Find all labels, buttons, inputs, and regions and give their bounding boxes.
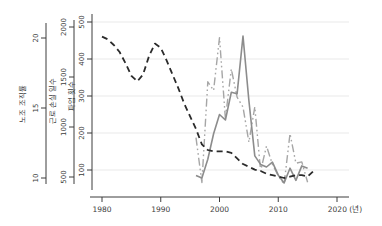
labor-statistics-chart: 19801990200020102020 (년) 101520노조 조직률500… <box>0 0 382 226</box>
y-axis-tick-label: 20 <box>32 34 40 43</box>
y-axis-tick-label: 400 <box>78 52 86 65</box>
y-axis-title-lost_days: 근로 손실 일수 <box>48 78 57 125</box>
x-axis-tick-label: 2020 (년) <box>328 204 362 214</box>
x-axis: 19801990200020102020 (년) <box>90 197 362 214</box>
x-axis-tick-label: 1990 <box>151 205 170 214</box>
chart-canvas: 19801990200020102020 (년) 101520노조 조직률500… <box>0 0 382 226</box>
series-line-lost_days <box>196 38 308 185</box>
x-axis-tick-label: 2010 <box>269 205 288 214</box>
y-axis-tick-label: 200 <box>78 126 86 139</box>
y-axes: 101520노조 조직률500100015002000근로 손실 일수10020… <box>18 14 93 190</box>
gridlines <box>90 22 349 170</box>
series-line-strikes <box>196 36 308 183</box>
y-axis-tick-label: 500 <box>60 170 68 183</box>
y-axis-tick-label: 300 <box>78 89 86 102</box>
y-axis-tick-label: 1000 <box>60 118 68 136</box>
y-axis-tick-label: 15 <box>32 104 40 113</box>
x-axis-tick-label: 2000 <box>210 205 229 214</box>
y-axis-title-density: 노조 조직률 <box>18 85 27 122</box>
y-axis-title-strikes: 파업 횟수 <box>67 81 76 111</box>
x-axis-tick-label: 1980 <box>92 205 111 214</box>
y-axis-tick-label: 10 <box>32 174 40 183</box>
y-axis-tick-label: 100 <box>78 163 86 176</box>
y-axis-tick-label: 500 <box>78 15 86 28</box>
data-series <box>102 36 314 184</box>
y-axis-tick-label: 2000 <box>60 18 68 36</box>
